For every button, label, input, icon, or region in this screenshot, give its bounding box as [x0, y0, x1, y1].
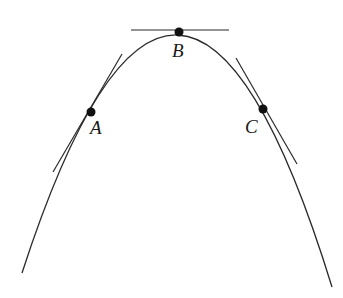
- point-b: [175, 28, 184, 37]
- label-b: B: [172, 40, 184, 61]
- parabola-curve: [22, 35, 332, 287]
- label-c: C: [245, 116, 258, 137]
- point-a: [87, 108, 96, 117]
- point-c: [259, 105, 268, 114]
- label-a: A: [88, 117, 102, 138]
- parabola-tangent-diagram: A B C: [0, 0, 343, 298]
